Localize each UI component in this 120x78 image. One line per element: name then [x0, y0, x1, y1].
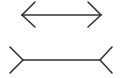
left-fin-line	[10, 60, 23, 73]
left-fin-line	[22, 2, 35, 15]
right-fin-line	[100, 60, 112, 73]
right-fin-line	[100, 47, 112, 60]
right-fin-line	[88, 15, 101, 27]
muller-lyer-diagram	[0, 0, 120, 78]
top-arrow-figure	[22, 2, 101, 27]
right-fin-line	[88, 2, 101, 15]
left-fin-line	[22, 15, 35, 27]
bottom-fin-figure	[10, 47, 112, 73]
left-fin-line	[10, 47, 23, 60]
